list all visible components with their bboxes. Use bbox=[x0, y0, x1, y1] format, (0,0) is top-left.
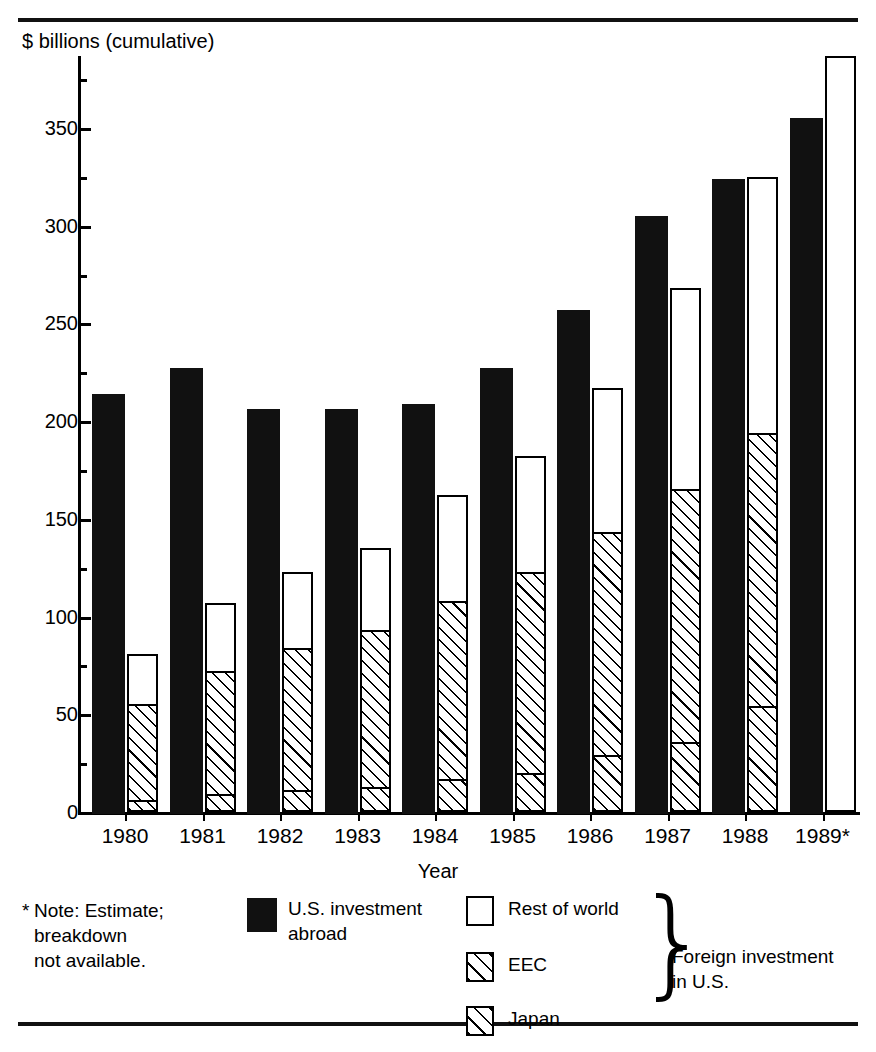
x-tick bbox=[125, 812, 127, 821]
divider-japan-eec bbox=[594, 755, 621, 757]
bar-us-investment-abroad bbox=[325, 409, 358, 814]
x-tick bbox=[668, 812, 670, 821]
divider-eec-rest bbox=[207, 671, 234, 673]
segment-japan bbox=[517, 775, 544, 810]
segment-japan bbox=[594, 757, 621, 810]
x-tick-label: 1988 bbox=[700, 824, 790, 848]
x-tick-label: 1986 bbox=[545, 824, 635, 848]
divider-eec-rest bbox=[362, 630, 389, 632]
segment-eec bbox=[362, 632, 389, 788]
segment-japan bbox=[672, 744, 699, 810]
chart-legend: * Note: Estimate; breakdown not availabl… bbox=[0, 890, 876, 1020]
legend-label-us-abroad-line2: abroad bbox=[288, 923, 347, 944]
bar-us-investment-abroad bbox=[247, 409, 280, 814]
x-tick-label: 1985 bbox=[468, 824, 558, 848]
x-tick bbox=[280, 812, 282, 821]
bar-series-container bbox=[78, 0, 860, 815]
legend-swatch-eec bbox=[466, 952, 494, 982]
legend-swatch-japan bbox=[466, 1006, 494, 1036]
segment-japan bbox=[439, 781, 466, 810]
x-tick bbox=[590, 812, 592, 821]
estimate-note: * Note: Estimate; breakdown not availabl… bbox=[34, 898, 164, 973]
segment-eec bbox=[284, 650, 311, 793]
divider-eec-rest bbox=[517, 572, 544, 574]
segment-eec bbox=[207, 673, 234, 796]
segment-eec bbox=[672, 491, 699, 743]
segment-japan bbox=[284, 792, 311, 810]
legend-swatch-rest-of-world bbox=[466, 896, 494, 926]
y-tick-label: 0 bbox=[24, 801, 78, 824]
segment-eec bbox=[439, 603, 466, 781]
segment-eec bbox=[129, 706, 156, 802]
bar-us-investment-abroad bbox=[402, 404, 435, 814]
x-tick-label: 1989* bbox=[778, 824, 868, 848]
x-tick bbox=[358, 812, 360, 821]
y-tick-label: 50 bbox=[24, 703, 78, 726]
bar-foreign-investment-in-us bbox=[282, 572, 313, 812]
note-asterisk: * bbox=[22, 898, 29, 923]
bar-foreign-investment-in-us bbox=[515, 456, 546, 812]
bar-us-investment-abroad bbox=[712, 179, 745, 814]
divider-japan-eec bbox=[749, 706, 776, 708]
legend-label-rest-of-world: Rest of world bbox=[508, 898, 619, 920]
y-tick-label: 150 bbox=[24, 508, 78, 531]
bar-foreign-investment-in-us bbox=[825, 56, 856, 812]
bar-foreign-investment-in-us bbox=[360, 548, 391, 812]
x-tick-label: 1983 bbox=[313, 824, 403, 848]
note-line-1: Note: Estimate; bbox=[34, 900, 164, 921]
y-tick-label: 200 bbox=[24, 410, 78, 433]
y-tick-label: 250 bbox=[24, 312, 78, 335]
bar-foreign-investment-in-us bbox=[670, 288, 701, 812]
divider-eec-rest bbox=[129, 704, 156, 706]
bar-foreign-investment-in-us bbox=[205, 603, 236, 812]
legend-label-japan: Japan bbox=[508, 1008, 560, 1030]
x-tick bbox=[435, 812, 437, 821]
segment-japan bbox=[207, 796, 234, 810]
y-tick-label: 350 bbox=[24, 117, 78, 140]
x-tick-label: 1982 bbox=[235, 824, 325, 848]
divider-japan-eec bbox=[207, 794, 234, 796]
divider-japan-eec bbox=[129, 800, 156, 802]
x-axis-title: Year bbox=[0, 860, 876, 883]
legend-group-label-foreign: Foreign investment in U.S. bbox=[672, 944, 834, 995]
bar-us-investment-abroad bbox=[557, 310, 590, 814]
bar-us-investment-abroad bbox=[170, 368, 203, 814]
segment-eec bbox=[749, 435, 776, 709]
segment-japan bbox=[362, 789, 389, 810]
x-tick bbox=[203, 812, 205, 821]
segment-eec bbox=[517, 574, 544, 775]
bar-us-investment-abroad bbox=[480, 368, 513, 814]
x-tick bbox=[823, 812, 825, 821]
y-tick-label: 300 bbox=[24, 215, 78, 238]
legend-label-eec: EEC bbox=[508, 954, 547, 976]
legend-label-us-abroad: U.S. investment abroad bbox=[288, 896, 422, 946]
divider-japan-eec bbox=[517, 773, 544, 775]
segment-japan bbox=[129, 802, 156, 810]
divider-eec-rest bbox=[594, 532, 621, 534]
legend-label-us-abroad-line1: U.S. investment bbox=[288, 898, 422, 919]
bar-foreign-investment-in-us bbox=[592, 388, 623, 812]
divider-eec-rest bbox=[749, 433, 776, 435]
bar-us-investment-abroad bbox=[92, 394, 125, 814]
legend-swatch-us-abroad bbox=[247, 898, 277, 932]
bar-foreign-investment-in-us bbox=[437, 495, 468, 812]
divider-eec-rest bbox=[284, 648, 311, 650]
note-line-3: not available. bbox=[34, 950, 146, 971]
bar-foreign-investment-in-us bbox=[747, 177, 778, 812]
segment-eec bbox=[594, 534, 621, 757]
x-tick-label: 1980 bbox=[80, 824, 170, 848]
divider-japan-eec bbox=[439, 779, 466, 781]
bar-foreign-investment-in-us bbox=[127, 654, 158, 812]
note-line-2: breakdown bbox=[34, 925, 127, 946]
divider-japan-eec bbox=[362, 787, 389, 789]
divider-eec-rest bbox=[439, 601, 466, 603]
legend-group-label-line2: in U.S. bbox=[672, 971, 729, 992]
bar-us-investment-abroad bbox=[635, 216, 668, 814]
divider-japan-eec bbox=[284, 790, 311, 792]
bar-us-investment-abroad bbox=[790, 118, 823, 814]
divider-japan-eec bbox=[672, 742, 699, 744]
divider-eec-rest bbox=[672, 489, 699, 491]
segment-japan bbox=[749, 708, 776, 810]
x-tick bbox=[513, 812, 515, 821]
x-tick bbox=[745, 812, 747, 821]
